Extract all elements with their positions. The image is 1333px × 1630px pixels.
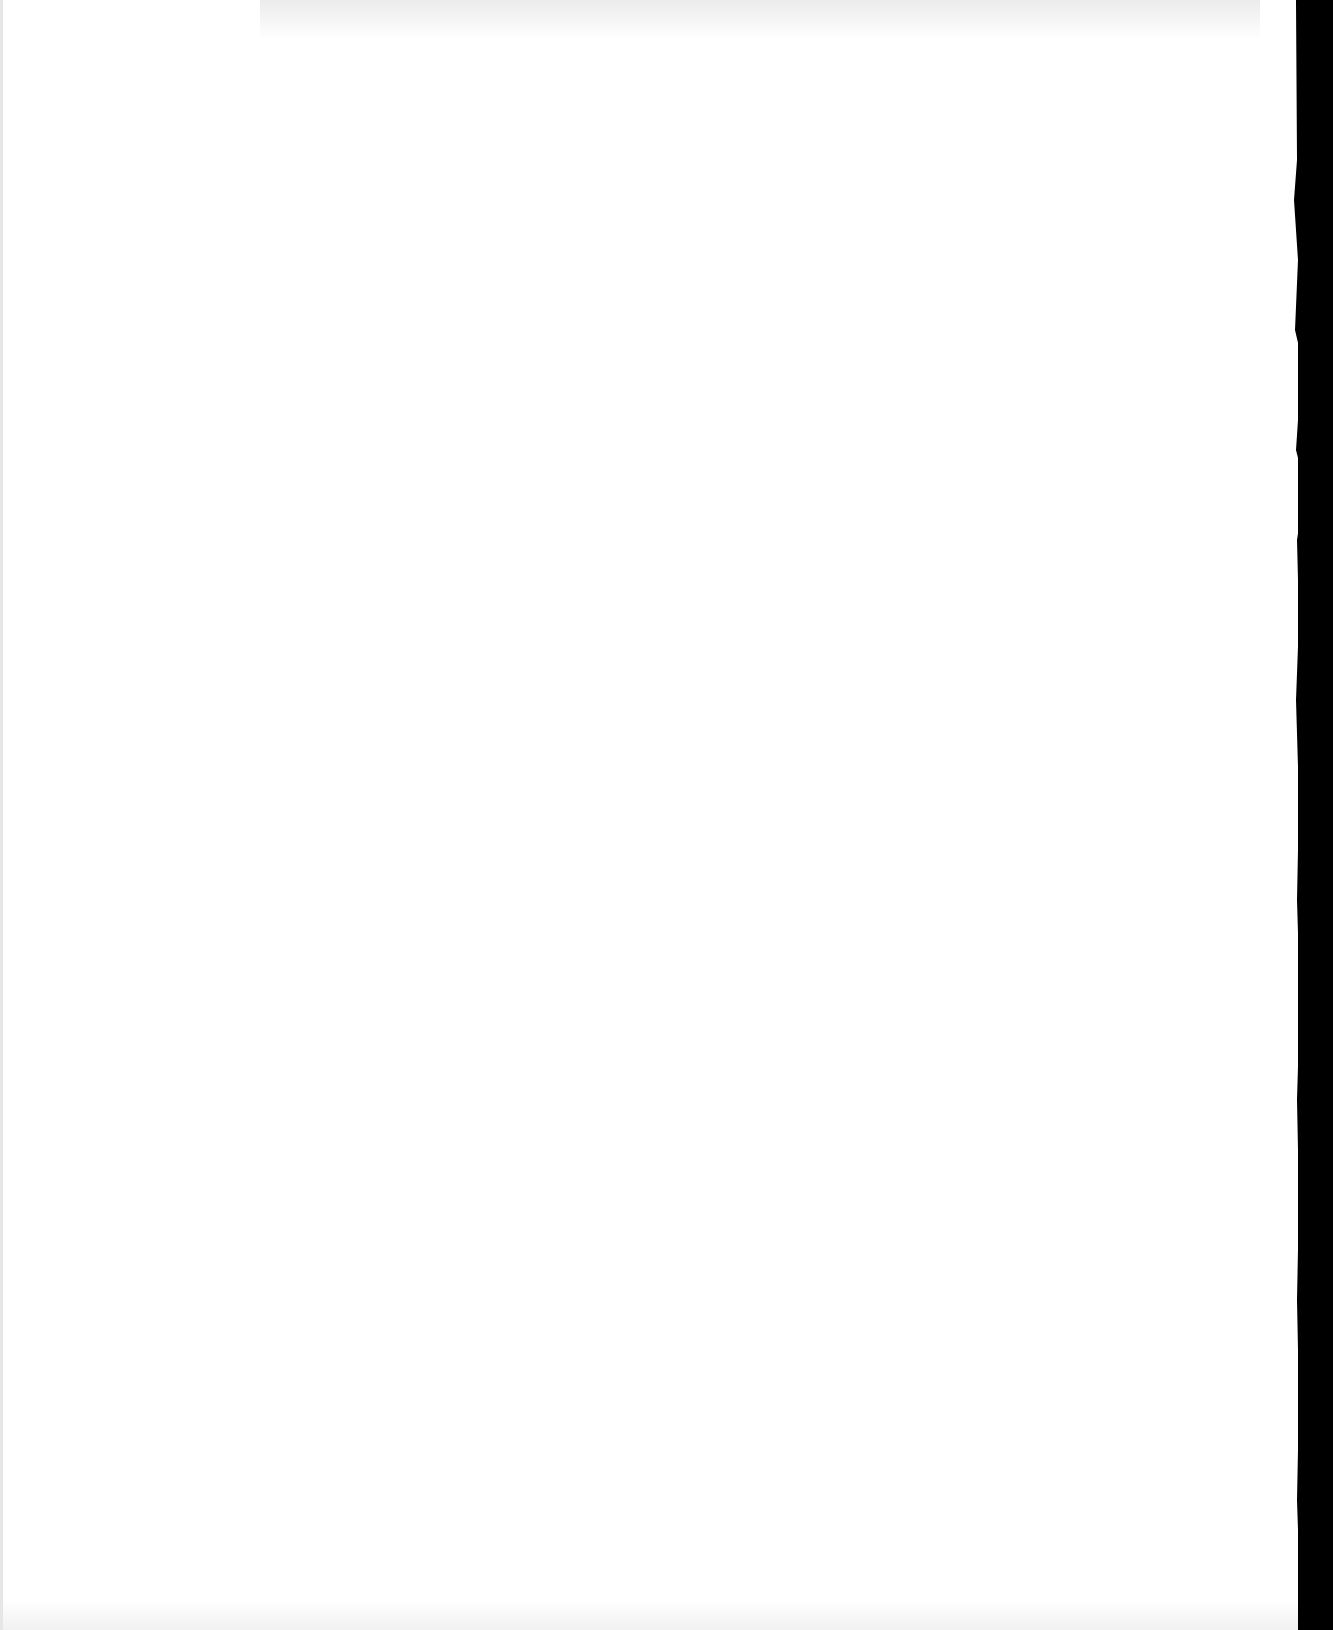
top-bleed-through: [260, 0, 1260, 40]
left-edge: [0, 0, 3, 1630]
bottom-bleed-through: [0, 1600, 1298, 1630]
blank-paper-page: [0, 0, 1298, 1630]
